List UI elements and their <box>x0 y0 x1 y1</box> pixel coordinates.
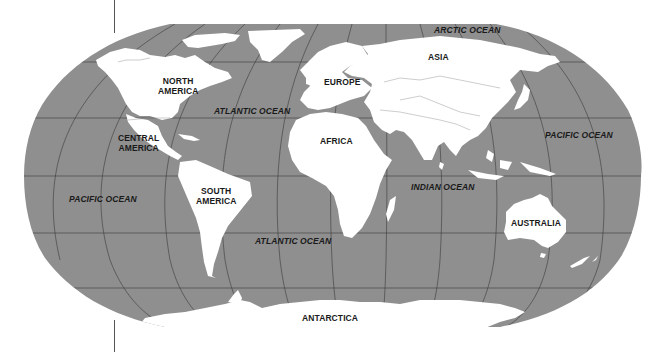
label-pacific-ocean-west: PACIFIC OCEAN <box>69 194 137 204</box>
label-atlantic-ocean-north: ATLANTIC OCEAN <box>214 106 290 116</box>
label-africa: AFRICA <box>320 136 353 146</box>
label-indian-ocean: INDIAN OCEAN <box>411 182 475 192</box>
label-atlantic-ocean-south: ATLANTIC OCEAN <box>255 236 331 246</box>
label-arctic-ocean: ARCTIC OCEAN <box>434 25 500 35</box>
label-south-america-line2: AMERICA <box>196 196 236 206</box>
label-central-america: CENTRAL AMERICA <box>118 133 159 153</box>
label-asia: ASIA <box>428 52 449 62</box>
margin-line-bottom <box>114 320 115 352</box>
label-pacific-ocean-east: PACIFIC OCEAN <box>545 130 613 140</box>
label-south-america-line1: SOUTH <box>196 186 236 196</box>
label-south-america: SOUTH AMERICA <box>196 186 236 206</box>
label-central-america-line1: CENTRAL <box>118 133 159 143</box>
map-canvas <box>0 0 658 352</box>
label-north-america-line1: NORTH <box>158 76 198 86</box>
label-central-america-line2: AMERICA <box>118 143 159 153</box>
label-europe: EUROPE <box>324 77 361 87</box>
label-australia: AUSTRALIA <box>511 218 561 228</box>
label-antarctica: ANTARCTICA <box>302 313 358 323</box>
margin-line-top <box>114 0 115 33</box>
world-map: NORTH AMERICA CENTRAL AMERICA SOUTH AMER… <box>0 0 658 352</box>
label-north-america-line2: AMERICA <box>158 86 198 96</box>
label-north-america: NORTH AMERICA <box>158 76 198 96</box>
